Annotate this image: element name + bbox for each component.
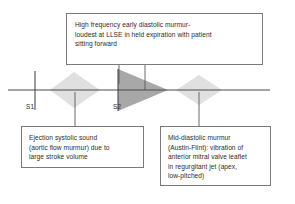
callout-early-diastolic-murmur: High frequency early diastolic murmur- l…: [66, 13, 263, 65]
figure-container: S1 S2 High frequency early diastolic mur…: [0, 0, 295, 204]
callout-ejection-systolic-sound: Ejection systolic sound (aortic flow mur…: [21, 126, 144, 168]
callout-ejection-systolic-sound-text: Ejection systolic sound (aortic flow mur…: [29, 133, 137, 162]
callout-mid-diastolic-murmur: Mid-diastolic murmur (Austin-Flint): vib…: [160, 126, 271, 186]
heart-sound-label-s2: S2: [113, 103, 121, 111]
heart-sound-label-s1: S1: [26, 103, 34, 111]
callout-early-diastolic-murmur-text: High frequency early diastolic murmur- l…: [75, 20, 255, 49]
callout-mid-diastolic-murmur-text: Mid-diastolic murmur (Austin-Flint): vib…: [168, 133, 264, 181]
